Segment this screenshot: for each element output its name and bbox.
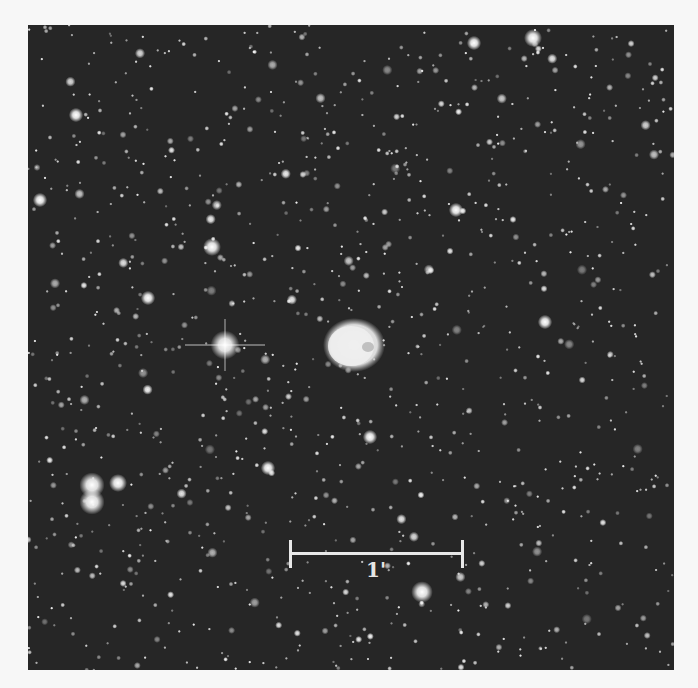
star [302, 269, 307, 274]
star [423, 31, 426, 34]
star [640, 615, 647, 622]
star [355, 596, 360, 601]
star [450, 603, 453, 606]
star [543, 131, 546, 134]
star [285, 393, 292, 400]
star [655, 568, 658, 571]
star [497, 208, 500, 211]
star [70, 402, 73, 405]
star [432, 67, 439, 74]
star [647, 99, 650, 102]
star [33, 582, 36, 585]
star [123, 341, 128, 346]
star [102, 161, 107, 166]
star [388, 325, 391, 328]
star [120, 580, 127, 587]
star [495, 644, 502, 651]
star [216, 366, 219, 369]
star [452, 430, 457, 435]
star [614, 604, 621, 611]
star [462, 412, 465, 415]
star [423, 209, 426, 212]
star [363, 216, 368, 221]
star [641, 88, 644, 91]
star [417, 430, 420, 433]
star [602, 186, 609, 193]
star [165, 539, 168, 542]
star [538, 315, 552, 329]
star [88, 93, 91, 96]
star [152, 436, 155, 439]
star [513, 485, 516, 488]
star [60, 426, 65, 431]
star [161, 512, 164, 515]
star [592, 131, 595, 134]
star [338, 464, 341, 467]
star [111, 244, 114, 247]
star [28, 351, 30, 354]
star [613, 428, 616, 431]
star [625, 51, 632, 58]
star [111, 434, 116, 439]
star [525, 65, 528, 68]
star [92, 668, 95, 670]
star [662, 110, 665, 113]
star [222, 540, 225, 543]
star [482, 325, 485, 328]
star [69, 336, 74, 341]
star [356, 608, 359, 611]
star [538, 646, 543, 651]
star [83, 112, 88, 117]
star [167, 622, 170, 625]
star [399, 45, 404, 50]
star [488, 233, 493, 238]
star [48, 26, 53, 31]
star [130, 255, 135, 260]
star [221, 652, 224, 655]
star [591, 340, 594, 343]
star [499, 376, 502, 379]
star [162, 467, 169, 474]
star [333, 223, 338, 228]
star [511, 102, 514, 105]
star [367, 633, 374, 640]
star [457, 609, 460, 612]
star [96, 210, 99, 213]
star [665, 29, 668, 32]
star [572, 485, 577, 490]
star [205, 488, 210, 493]
star [134, 159, 137, 162]
star [289, 442, 294, 447]
star [417, 80, 420, 83]
star [94, 564, 99, 569]
star [97, 130, 102, 135]
star [144, 511, 147, 514]
star [317, 433, 320, 436]
star [625, 411, 628, 414]
star [174, 223, 177, 226]
star [293, 30, 296, 33]
star [58, 401, 65, 408]
star [141, 594, 144, 597]
star [407, 54, 410, 57]
star [28, 167, 30, 170]
star [115, 338, 120, 343]
star [69, 351, 72, 354]
star [407, 198, 412, 203]
star [611, 58, 614, 61]
star [660, 197, 665, 202]
star [438, 100, 445, 107]
star [171, 217, 176, 222]
star [289, 520, 292, 523]
star [75, 143, 78, 146]
star [516, 448, 521, 453]
star [159, 427, 162, 430]
star [508, 331, 511, 334]
star [340, 252, 343, 255]
star [644, 647, 647, 650]
star [55, 231, 60, 236]
star [289, 428, 292, 431]
star [138, 422, 141, 425]
star [275, 622, 282, 629]
star [60, 603, 65, 608]
